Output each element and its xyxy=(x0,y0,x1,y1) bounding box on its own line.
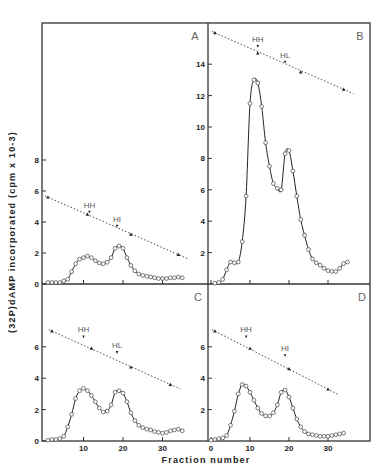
data-point xyxy=(256,81,260,85)
panel-a: A02468HHHI xyxy=(35,30,200,289)
data-point xyxy=(58,281,62,285)
x-tick-label: 20 xyxy=(285,444,294,453)
data-point xyxy=(50,438,54,442)
data-point xyxy=(141,274,145,278)
data-point xyxy=(113,246,117,250)
triangle-marker xyxy=(342,88,346,91)
data-point xyxy=(233,409,237,413)
y-tick-label: 6 xyxy=(35,343,40,352)
data-point xyxy=(264,414,268,418)
data-point xyxy=(161,277,165,281)
data-point xyxy=(137,423,141,427)
x-tick-label: 30 xyxy=(158,444,167,453)
data-point xyxy=(90,394,94,398)
data-point xyxy=(113,390,117,394)
data-point xyxy=(153,430,157,434)
data-point xyxy=(82,387,86,391)
data-point xyxy=(326,434,330,438)
triangle-marker xyxy=(50,329,54,332)
data-point xyxy=(78,389,82,393)
y-tick-label: 2 xyxy=(35,249,40,258)
data-point xyxy=(342,262,346,266)
data-point xyxy=(279,188,283,192)
data-point xyxy=(145,427,149,431)
data-point xyxy=(74,397,78,401)
data-point xyxy=(326,269,330,273)
triangle-marker xyxy=(213,31,217,34)
panel-b: B2468101214HHHL xyxy=(196,30,364,285)
data-point xyxy=(272,411,276,415)
data-point xyxy=(149,275,153,279)
arrow-down-icon xyxy=(284,354,287,357)
data-point xyxy=(252,398,256,402)
data-point xyxy=(221,436,225,440)
data-point xyxy=(62,279,66,283)
data-point xyxy=(62,434,66,438)
data-point xyxy=(121,391,125,395)
data-point xyxy=(303,430,307,434)
data-point xyxy=(157,430,161,434)
data-point xyxy=(307,248,311,252)
data-point xyxy=(275,403,279,407)
data-point xyxy=(165,277,169,281)
data-point xyxy=(176,275,180,279)
data-point xyxy=(109,403,113,407)
data-point xyxy=(46,281,50,285)
data-point xyxy=(303,233,307,237)
data-point xyxy=(338,432,342,436)
data-point xyxy=(330,434,334,438)
data-point xyxy=(330,270,334,274)
data-point xyxy=(145,274,149,278)
data-point xyxy=(93,400,97,404)
data-point xyxy=(236,260,240,264)
data-point xyxy=(275,186,279,190)
data-point xyxy=(169,429,173,433)
y-tick-label: 4 xyxy=(201,217,206,226)
data-point xyxy=(165,430,169,434)
data-point xyxy=(90,256,94,260)
data-point xyxy=(283,388,287,392)
density-line xyxy=(49,330,181,389)
data-point xyxy=(334,270,338,274)
x-tick-label: 10 xyxy=(246,444,255,453)
data-point xyxy=(105,409,109,413)
data-point xyxy=(86,389,90,393)
data-point xyxy=(161,431,165,435)
activity-curve xyxy=(215,78,348,283)
data-point xyxy=(86,254,90,258)
data-point xyxy=(133,419,137,423)
data-point xyxy=(121,246,125,250)
panel-d: D2460102030HHHI xyxy=(201,291,366,453)
data-point xyxy=(248,390,252,394)
y-tick-label: 14 xyxy=(196,60,205,69)
marker-label: HH xyxy=(78,325,90,334)
data-point xyxy=(101,262,105,266)
data-point xyxy=(264,141,268,145)
data-point xyxy=(180,429,184,433)
data-point xyxy=(137,272,141,276)
y-tick-label: 10 xyxy=(196,123,205,132)
data-point xyxy=(311,257,315,261)
marker-label: HL xyxy=(280,51,291,60)
data-point xyxy=(78,257,82,261)
data-point xyxy=(268,414,272,418)
data-point xyxy=(213,281,217,285)
data-point xyxy=(109,256,113,260)
data-point xyxy=(217,281,221,285)
data-point xyxy=(322,434,326,438)
data-point xyxy=(236,392,240,396)
data-point xyxy=(252,78,256,82)
data-point xyxy=(318,263,322,267)
data-point xyxy=(129,264,133,268)
data-point xyxy=(311,433,315,437)
figure-frame xyxy=(42,23,370,441)
data-point xyxy=(129,411,133,415)
data-point xyxy=(225,268,229,272)
x-tick-label: 0 xyxy=(209,444,214,453)
data-point xyxy=(291,169,295,173)
data-point xyxy=(295,194,299,198)
data-point xyxy=(180,276,184,280)
activity-curve xyxy=(211,384,344,440)
data-point xyxy=(54,438,58,442)
y-tick-label: 6 xyxy=(35,187,40,196)
